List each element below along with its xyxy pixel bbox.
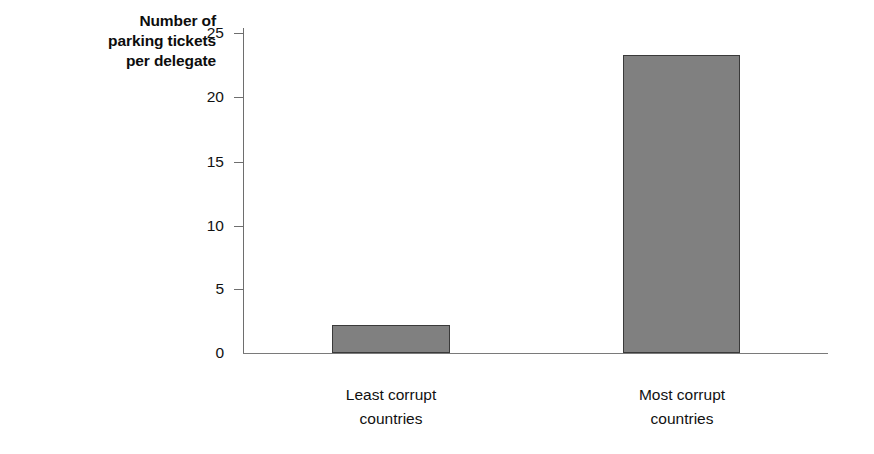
y-axis-title-line-3: per delegate bbox=[20, 51, 216, 71]
y-tick-label-20: 20 bbox=[178, 89, 224, 105]
y-axis-title: Number of parking tickets per delegate bbox=[20, 11, 216, 71]
y-tick-label-5: 5 bbox=[178, 281, 224, 297]
bar-most-corrupt-countries bbox=[623, 55, 740, 353]
bar-chart: Number of parking tickets per delegate 2… bbox=[0, 0, 874, 454]
y-tick-mark-5 bbox=[234, 289, 243, 290]
x-axis-line bbox=[243, 353, 828, 354]
x-category-label-most-corrupt-countries: Most corrupt countries bbox=[592, 383, 772, 431]
y-axis-line bbox=[243, 28, 244, 354]
y-tick-mark-20 bbox=[234, 97, 243, 98]
y-tick-mark-10 bbox=[234, 226, 243, 227]
y-tick-label-15: 15 bbox=[178, 154, 224, 170]
x-category-label-0-line-2: countries bbox=[301, 407, 481, 431]
x-category-label-0-line-1: Least corrupt bbox=[301, 383, 481, 407]
x-category-label-1-line-2: countries bbox=[592, 407, 772, 431]
y-tick-label-25: 25 bbox=[178, 25, 224, 41]
bar-least-corrupt-countries bbox=[332, 325, 450, 353]
y-tick-mark-25 bbox=[234, 33, 243, 34]
x-category-label-least-corrupt-countries: Least corrupt countries bbox=[301, 383, 481, 431]
y-tick-mark-15 bbox=[234, 162, 243, 163]
x-category-label-1-line-1: Most corrupt bbox=[592, 383, 772, 407]
y-tick-label-10: 10 bbox=[178, 218, 224, 234]
y-tick-label-0: 0 bbox=[178, 345, 224, 361]
